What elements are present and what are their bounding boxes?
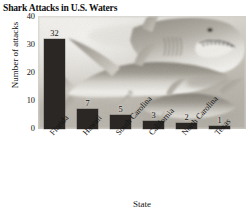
y-tick-40: 40 [27, 12, 35, 21]
y-axis: 40 30 20 10 0 Number of attacks [0, 0, 38, 214]
shark-attacks-bar-chart: Shark Attacks in U.S. Waters [0, 0, 246, 214]
bar-value-hawaii: 7 [77, 99, 98, 108]
chart-title: Shark Attacks in U.S. Waters [3, 2, 117, 13]
bar-value-florida: 32 [44, 29, 65, 38]
x-axis-title: State [38, 199, 246, 209]
y-tick-30: 30 [27, 40, 35, 49]
y-tick-20: 20 [27, 68, 35, 77]
x-axis: Florida Hawaii South Carolina California… [38, 129, 246, 199]
y-tick-0: 0 [31, 124, 35, 133]
y-tick-10: 10 [27, 96, 35, 105]
y-axis-title: Number of attacks [10, 0, 20, 113]
bar-value-south-carolina: 5 [110, 105, 131, 114]
